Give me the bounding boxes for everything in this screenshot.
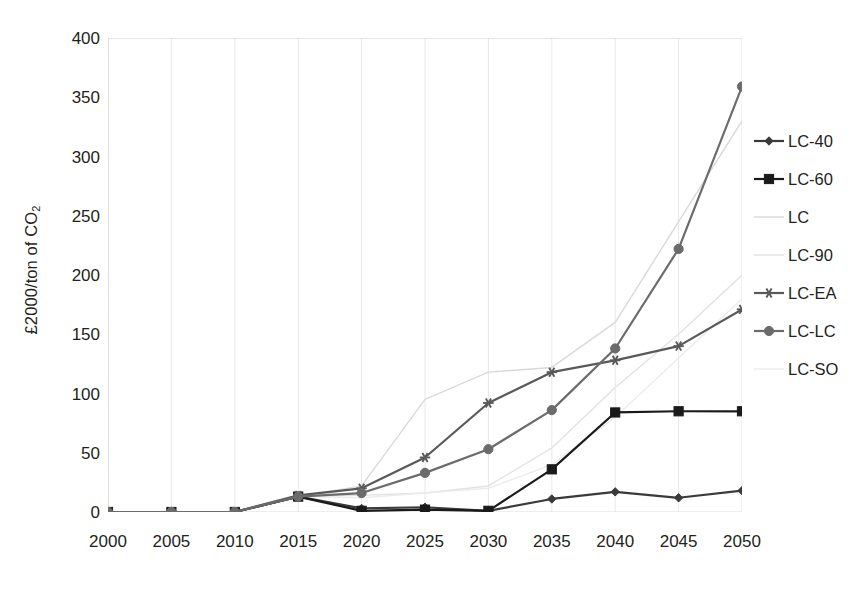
legend-key-circle-icon xyxy=(752,323,786,339)
data-point-marker xyxy=(765,137,773,145)
data-point-marker xyxy=(738,486,742,494)
chart-legend: LC-40LC-60LCLC-90LC-EALC-LCLC-SO xyxy=(752,122,858,388)
data-point-marker xyxy=(420,505,429,512)
legend-item-lc-so[interactable]: LC-SO xyxy=(752,350,858,388)
data-point-marker xyxy=(484,445,493,454)
y-axis-tick-label: 300 xyxy=(44,149,100,166)
data-point-marker xyxy=(737,82,742,91)
data-point-marker xyxy=(737,407,742,416)
plot-svg xyxy=(108,38,742,512)
data-point-marker xyxy=(674,244,683,253)
x-axis-tick-labels: 2000200520102015202020252030203520402045… xyxy=(0,533,858,561)
data-point-marker xyxy=(764,288,774,297)
data-point-marker xyxy=(357,506,366,512)
y-axis-tick-label: 250 xyxy=(44,208,100,225)
data-point-marker xyxy=(167,507,176,512)
legend-key-line-icon xyxy=(752,209,786,225)
data-point-marker xyxy=(484,506,493,512)
legend-item-lc-lc[interactable]: LC-LC xyxy=(752,312,858,350)
data-point-marker xyxy=(611,344,620,353)
legend-item-lc-40[interactable]: LC-40 xyxy=(752,122,858,160)
x-axis-tick-label: 2050 xyxy=(705,533,779,550)
y-axis-tick-label: 50 xyxy=(44,445,100,462)
data-point-marker xyxy=(764,174,773,183)
legend-label: LC-SO xyxy=(788,361,838,378)
legend-key-line-icon xyxy=(752,247,786,263)
legend-key-asterisk-icon xyxy=(752,285,786,301)
data-point-marker xyxy=(547,405,556,414)
data-point-marker xyxy=(294,492,303,501)
legend-label: LC-40 xyxy=(788,133,833,150)
y-axis-tick-label: 0 xyxy=(44,504,100,521)
legend-key-diamond-icon xyxy=(752,133,786,149)
legend-label: LC xyxy=(788,209,809,226)
y-axis-tick-label: 150 xyxy=(44,326,100,343)
data-point-marker xyxy=(611,488,619,496)
data-point-marker xyxy=(674,407,683,416)
legend-item-lc-ea[interactable]: LC-EA xyxy=(752,274,858,312)
data-point-marker xyxy=(547,465,556,474)
data-point-marker xyxy=(674,494,682,502)
legend-label: LC-EA xyxy=(788,285,837,302)
data-point-marker xyxy=(420,468,429,477)
y-axis-tick-label: 100 xyxy=(44,386,100,403)
data-point-marker xyxy=(357,488,366,497)
data-point-marker xyxy=(548,495,556,503)
legend-item-lc-90[interactable]: LC-90 xyxy=(752,236,858,274)
data-point-marker xyxy=(764,326,773,335)
legend-label: LC-90 xyxy=(788,247,833,264)
legend-item-lc[interactable]: LC xyxy=(752,198,858,236)
data-point-marker xyxy=(611,408,620,417)
plot-area xyxy=(108,38,742,512)
legend-label: LC-60 xyxy=(788,171,833,188)
data-point-marker xyxy=(230,507,239,512)
legend-label: LC-LC xyxy=(788,323,836,340)
legend-key-line-icon xyxy=(752,361,786,377)
y-axis-tick-labels: 400350300250200150100500 xyxy=(38,0,100,589)
legend-item-lc-60[interactable]: LC-60 xyxy=(752,160,858,198)
y-axis-tick-label: 400 xyxy=(44,30,100,47)
y-axis-tick-label: 200 xyxy=(44,267,100,284)
legend-key-square-icon xyxy=(752,171,786,187)
line-chart: £2000/ton of CO2 40035030025020015010050… xyxy=(0,0,858,589)
y-axis-tick-label: 350 xyxy=(44,89,100,106)
